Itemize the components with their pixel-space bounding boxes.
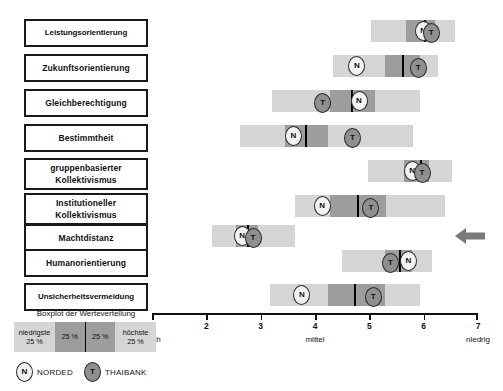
legend-key-norded: N NORDED [16, 362, 73, 382]
median-line [357, 195, 359, 217]
axis-tick-label: 6 [414, 321, 434, 331]
norded-marker-icon: N [351, 91, 368, 111]
thaibank-marker-icon: T [414, 163, 431, 183]
norded-marker-icon: N [400, 251, 417, 271]
norded-marker-icon: N [285, 126, 302, 146]
axis-anchor-label-niedrig: niedrig [453, 335, 503, 344]
legend-key-thaibank: T THAIBANK [84, 362, 147, 382]
boxplot-row: NT [0, 20, 503, 42]
axis-tick [261, 313, 263, 320]
quartile-legend-strip: niedrigste25 %25 %25 %höchste25 % [14, 322, 156, 352]
median-line [305, 125, 307, 147]
quartile-legend-segment: 25 % [86, 322, 116, 352]
legend-key-norded-label: NORDED [37, 368, 73, 377]
thaibank-marker-icon: T [245, 228, 262, 248]
quartile-legend-segment: niedrigste25 % [14, 322, 55, 352]
quartile-legend-segment-value: 25 % [92, 332, 109, 341]
axis-tick-label: 2 [196, 321, 216, 331]
boxplot-row: NT [0, 90, 503, 112]
thaibank-marker-icon: T [84, 362, 101, 382]
legend-key-thaibank-label: THAIBANK [105, 368, 147, 377]
axis-tick [206, 313, 208, 320]
quartile-legend-segment-value: 25 % [61, 332, 78, 341]
thaibank-marker-icon: T [344, 128, 361, 148]
row-highlight-arrow [455, 226, 485, 250]
thaibank-marker-icon: T [423, 23, 440, 43]
axis-tick [315, 313, 317, 320]
quartile-legend-segment: höchste25 % [115, 322, 156, 352]
axis-tick [476, 313, 478, 320]
axis-tick [424, 313, 426, 320]
axis-tick-label: 5 [359, 321, 379, 331]
thaibank-marker-icon: T [365, 287, 382, 307]
axis-tick-label: 3 [251, 321, 271, 331]
axis-tick [369, 313, 371, 320]
boxplot-row: NT [0, 195, 503, 217]
thaibank-marker-icon: T [314, 93, 331, 113]
quartile-legend-segment: 25 % [55, 322, 86, 352]
boxplot-row: NT [0, 250, 503, 272]
quartile-legend-segment-label: höchste [123, 328, 149, 337]
axis-anchor-label-mittel: mittel [290, 335, 340, 344]
quartile-legend-segment-value: 25 % [127, 337, 144, 346]
median-line [402, 55, 404, 77]
thaibank-marker-icon: T [410, 58, 427, 78]
boxplot-row: NT [0, 125, 503, 147]
median-line [354, 284, 356, 306]
boxplot-row: NT [0, 225, 503, 247]
boxplot-row: NT [0, 160, 503, 182]
axis-tick-label: 7 [468, 321, 488, 331]
thaibank-marker-icon: T [382, 253, 399, 273]
boxplot-row: NT [0, 284, 503, 306]
boxplot-legend-title: Boxplot der Werteverteilung [16, 309, 156, 318]
norded-marker-icon: N [314, 196, 331, 216]
quartile-legend-segment-label: niedrigste [19, 328, 51, 337]
boxplot-row: NT [0, 55, 503, 77]
axis-tick-label: 4 [305, 321, 325, 331]
quartile-legend-segment-value: 25 % [26, 337, 43, 346]
norded-marker-icon: N [16, 362, 33, 382]
chart-canvas: LeistungsorientierungZukunftsorientierun… [0, 0, 503, 391]
